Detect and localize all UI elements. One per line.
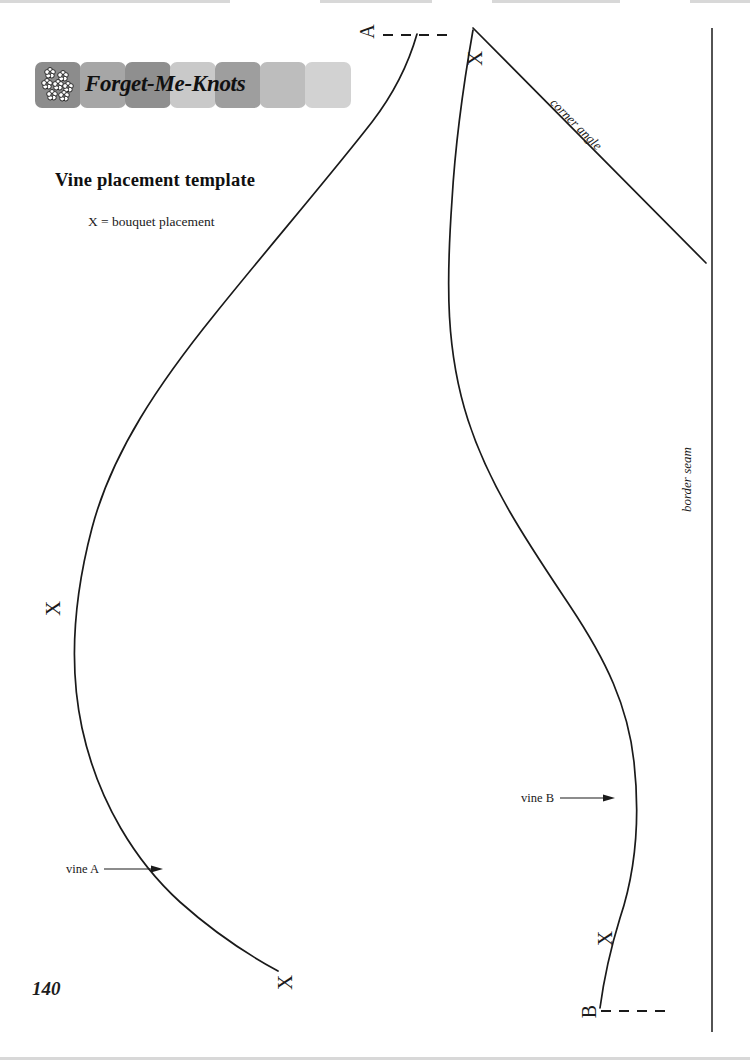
vine-b-curve: [449, 30, 637, 1008]
vine-a-leader: [104, 866, 163, 873]
trim-notch: [620, 0, 690, 3]
callout-vine-b: vine B: [521, 791, 554, 806]
brand-wordmark: Forget-Me-Knots: [85, 71, 245, 97]
bouquet-mark-vine-a-lower: X: [273, 975, 298, 990]
label-corner-angle: corner angle: [547, 95, 606, 154]
logo-swatch-6: [260, 62, 306, 108]
page-number: 140: [32, 978, 61, 1000]
page-title: Vine placement template: [55, 170, 255, 191]
label-a: A: [356, 24, 379, 38]
trim-notch: [230, 0, 320, 3]
bouquet-mark-top: X: [463, 51, 488, 66]
forget-me-not-flower-cluster-icon: [39, 66, 77, 104]
bouquet-mark-vine-a-upper: X: [41, 601, 66, 616]
legend-note: X = bouquet placement: [88, 214, 214, 230]
label-b: B: [578, 1005, 601, 1018]
vine-b-leader: [560, 795, 615, 802]
label-border-seam: border seam: [679, 447, 695, 512]
callout-vine-a: vine A: [66, 862, 99, 877]
page-trim-edge-top: [0, 0, 750, 3]
trim-notch: [432, 0, 492, 3]
page-canvas: Forget-Me-Knots Vine placement template …: [0, 0, 750, 1060]
logo-swatch-7: [305, 62, 351, 108]
vine-template-diagram: [0, 0, 750, 1060]
brand-logo-banner: Forget-Me-Knots: [35, 62, 350, 108]
bouquet-mark-vine-b-lower: X: [593, 931, 618, 946]
